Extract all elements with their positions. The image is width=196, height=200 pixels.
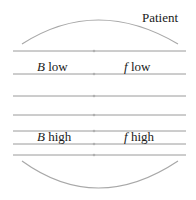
f-low-text: low [128,59,151,74]
center-dot [93,114,96,117]
b-var: B [37,59,45,74]
f-high-label: f high [124,129,154,144]
center-dot [93,143,96,146]
mri-field-diagram: Patient B low f low B high f high [0,0,196,200]
patient-label: Patient [142,10,178,25]
b-var: B [37,129,45,144]
b-high-label: B high [37,129,72,144]
center-dot [93,130,96,133]
center-dot [93,154,96,157]
center-dot [93,50,96,53]
f-low-label: f low [124,59,151,74]
center-dot [93,73,96,76]
b-low-text: low [45,59,68,74]
b-high-text: high [45,129,72,144]
patient-bottom-arc [22,161,178,188]
center-dot [93,95,96,98]
f-high-text: high [128,129,155,144]
b-low-label: B low [37,59,68,74]
center-markers [93,50,96,157]
